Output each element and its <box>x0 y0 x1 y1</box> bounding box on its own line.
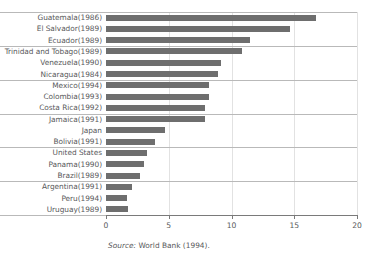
source-note: Source: World Bank (1994). <box>108 241 210 250</box>
bar <box>106 37 250 43</box>
x-axis-tick-label: 0 <box>104 221 109 230</box>
category-label: Colombia(1993) <box>43 92 102 101</box>
bar <box>106 94 209 100</box>
bar <box>106 161 144 167</box>
bar <box>106 48 242 54</box>
bar <box>106 139 155 145</box>
bar <box>106 26 290 32</box>
bar <box>106 71 218 77</box>
category-label: Guatemala(1986) <box>37 13 102 22</box>
bar <box>106 173 140 179</box>
bar <box>106 195 127 201</box>
bar <box>106 60 221 66</box>
category-label: Uruguay(1989) <box>47 205 102 214</box>
bar <box>106 82 209 88</box>
bar <box>106 105 205 111</box>
category-label: United States <box>53 148 102 157</box>
bar <box>106 184 132 190</box>
gridline <box>357 12 358 215</box>
category-label: Argentina(1991) <box>42 182 102 191</box>
x-axis-tick <box>294 215 295 219</box>
category-label: Costa Rica(1992) <box>39 103 102 112</box>
category-label: Trinidad and Tobago(1989) <box>5 47 102 56</box>
category-label: Mexico(1994) <box>52 81 102 90</box>
bar <box>106 116 205 122</box>
category-label: Brazil(1989) <box>57 171 102 180</box>
plot-area <box>106 12 357 215</box>
category-label: Jamaica(1991) <box>49 115 102 124</box>
x-axis-tick <box>232 215 233 219</box>
row-separator <box>0 46 357 47</box>
x-axis-tick <box>169 215 170 219</box>
x-axis-tick-label: 20 <box>352 221 362 230</box>
x-axis-tick-label: 10 <box>227 221 237 230</box>
source-label: Source: <box>108 241 136 250</box>
category-label: Nicaragua(1984) <box>41 70 102 79</box>
row-separator <box>0 114 357 115</box>
row-separator <box>0 12 357 13</box>
row-separator <box>0 181 357 182</box>
category-label: Ecuador(1989) <box>48 36 102 45</box>
bar <box>106 15 316 21</box>
x-axis-tick-label: 5 <box>166 221 171 230</box>
bar <box>106 127 165 133</box>
category-label: El Salvador(1989) <box>37 24 102 33</box>
category-label: Peru(1994) <box>61 194 102 203</box>
chart-figure: Guatemala(1986)El Salvador(1989)Ecuador(… <box>0 0 369 261</box>
category-label: Venezuela(1990) <box>40 58 102 67</box>
row-separator <box>0 147 357 148</box>
x-axis-tick-label: 15 <box>289 221 299 230</box>
x-axis-tick <box>357 215 358 219</box>
category-label: Japan <box>82 126 102 135</box>
source-text: World Bank (1994). <box>138 241 209 250</box>
category-label: Bolivia(1991) <box>53 137 102 146</box>
row-separator <box>0 80 357 81</box>
category-label: Panama(1990) <box>48 160 102 169</box>
bar <box>106 150 147 156</box>
x-axis-tick <box>106 215 107 219</box>
bar <box>106 206 128 212</box>
